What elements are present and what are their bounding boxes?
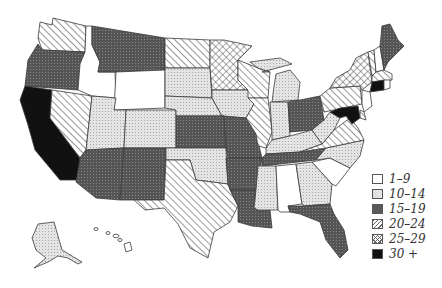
state-MT xyxy=(92,26,165,72)
state-CO xyxy=(124,110,176,148)
swatch-crosshatch-icon xyxy=(372,234,383,244)
swatch-white-icon xyxy=(372,174,383,184)
state-HI xyxy=(94,228,132,253)
state-AK xyxy=(32,222,82,268)
legend-label: 10–14 xyxy=(389,187,426,201)
state-CT xyxy=(370,80,384,92)
state-KS xyxy=(176,116,226,148)
swatch-hatch-icon xyxy=(372,219,383,229)
state-FL xyxy=(288,204,348,258)
legend-item-25-29: 25–29 xyxy=(372,231,426,246)
map-legend: 1–9 10–14 15–19 20–24 25–29 30 + xyxy=(372,171,426,261)
legend-label: 25–29 xyxy=(389,232,426,246)
state-MS xyxy=(254,166,278,210)
swatch-dotted-icon xyxy=(372,189,383,199)
state-ND xyxy=(165,38,210,68)
swatch-dark-icon xyxy=(372,204,383,214)
state-NM xyxy=(120,148,166,200)
legend-item-1-9: 1–9 xyxy=(372,171,426,186)
legend-item-10-14: 10–14 xyxy=(372,186,426,201)
legend-label: 20–24 xyxy=(389,217,426,231)
state-MI-lower xyxy=(272,70,300,102)
legend-label: 1–9 xyxy=(389,172,410,186)
state-NJ xyxy=(362,90,372,112)
state-WA xyxy=(38,18,86,52)
state-ME xyxy=(380,24,404,70)
state-RI xyxy=(384,80,390,90)
state-IN xyxy=(270,102,290,140)
legend-item-15-19: 15–19 xyxy=(372,201,426,216)
legend-label: 15–19 xyxy=(389,202,426,216)
state-SD xyxy=(165,68,212,98)
state-NY xyxy=(330,52,372,90)
legend-label: 30 + xyxy=(389,247,418,261)
state-AZ xyxy=(76,148,124,200)
state-WY xyxy=(114,70,165,110)
swatch-black-icon xyxy=(372,249,383,259)
legend-item-30-plus: 30 + xyxy=(372,246,426,261)
legend-item-20-24: 20–24 xyxy=(372,216,426,231)
